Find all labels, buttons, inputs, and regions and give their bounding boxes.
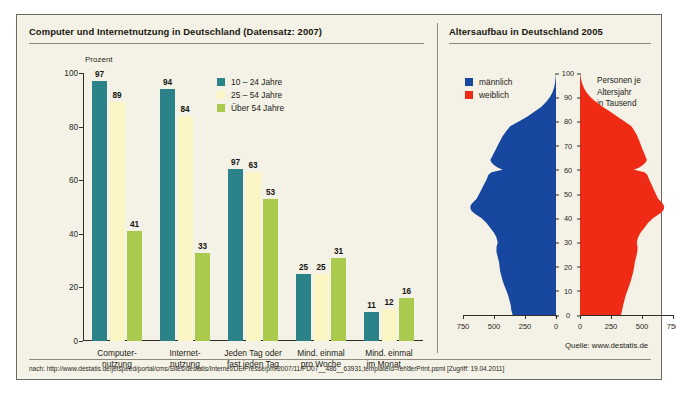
age-tick-label: 100 [562, 69, 574, 78]
bar-value-label: 53 [266, 188, 275, 197]
age-axis: 0102030405060708090100 [556, 73, 580, 315]
left-value-axis [463, 315, 556, 316]
bar[interactable]: 94 [160, 89, 175, 341]
age-tick-label: 20 [564, 262, 572, 271]
bar[interactable]: 12 [382, 309, 397, 341]
age-tick-label: 30 [564, 238, 572, 247]
age-tick-mark [555, 242, 559, 243]
bar-value-label: 63 [248, 161, 257, 170]
y-tick-label: 40 [69, 229, 78, 238]
bar-value-label: 89 [112, 91, 121, 100]
bar[interactable]: 84 [178, 116, 193, 341]
y-tick-label: 0 [73, 337, 78, 346]
bar[interactable]: 63 [246, 172, 261, 341]
value-tick-mark [611, 315, 612, 319]
value-tick-mark [580, 315, 581, 319]
age-tick: 70 [556, 141, 580, 150]
category-line: Internet- [146, 348, 224, 359]
value-tick-mark [673, 315, 674, 319]
age-tick-label: 0 [566, 311, 570, 320]
bar-value-label: 31 [334, 247, 343, 256]
age-tick-mark [577, 194, 581, 195]
age-tick: 60 [556, 165, 580, 174]
age-tick-mark [555, 121, 559, 122]
male-population-area [463, 73, 556, 315]
bar[interactable]: 11 [364, 312, 379, 341]
age-tick: 10 [556, 286, 580, 295]
bar-value-label: 25 [316, 263, 325, 272]
value-tick-label: 0 [554, 322, 558, 331]
y-tick-label: 20 [69, 283, 78, 292]
age-tick-mark [577, 97, 581, 98]
age-tick-mark [555, 97, 559, 98]
left-panel-title: Computer und Internetnutzung in Deutschl… [29, 26, 322, 37]
bar-group: 111216Mind. einmalim Monat … [355, 73, 423, 341]
bar-group: 976353Jeden Tag oderfast jeden Tag [219, 73, 287, 341]
age-tick-mark [577, 291, 581, 292]
bar-value-label: 94 [163, 78, 172, 87]
age-tick-label: 80 [564, 117, 572, 126]
age-tick: 40 [556, 214, 580, 223]
age-tick-mark [555, 194, 559, 195]
age-tick: 0 [556, 311, 580, 320]
age-tick-mark [577, 267, 581, 268]
age-tick: 20 [556, 262, 580, 271]
bar[interactable]: 33 [195, 253, 210, 341]
bar-plot-area: 020406080100 978941Computer-nutzung94843… [83, 73, 423, 341]
bar-value-label: 12 [384, 298, 393, 307]
bar[interactable]: 31 [331, 258, 346, 341]
age-tick: 50 [556, 190, 580, 199]
bar-value-label: 84 [180, 105, 189, 114]
value-tick-label: 0 [578, 322, 582, 331]
footer-source-url: nach: http://www.destatis.de/jetspeed/po… [29, 365, 504, 372]
footer-rule [29, 359, 651, 360]
bar[interactable]: 97 [228, 169, 243, 341]
age-tick-mark [555, 267, 559, 268]
age-tick-mark [577, 146, 581, 147]
age-tick: 30 [556, 238, 580, 247]
bar[interactable]: 16 [399, 298, 414, 341]
bar-value-label: 41 [130, 220, 139, 229]
age-tick-mark [555, 170, 559, 171]
age-tick-mark [555, 291, 559, 292]
age-tick-label: 90 [564, 93, 572, 102]
y-tick-mark [79, 341, 83, 342]
bar-value-label: 33 [198, 242, 207, 251]
chart-card: Computer und Internetnutzung in Deutschl… [16, 14, 662, 380]
age-tick-label: 50 [564, 190, 572, 199]
bar[interactable]: 89 [110, 102, 125, 341]
bar[interactable]: 25 [296, 274, 311, 341]
age-tick: 80 [556, 117, 580, 126]
age-tick-mark [555, 218, 559, 219]
bar-value-label: 97 [231, 158, 240, 167]
bar-group: 252531Mind. einmalpro Woche [287, 73, 355, 341]
value-tick-mark [556, 315, 557, 319]
age-tick: 90 [556, 93, 580, 102]
right-panel-title: Altersaufbau in Deutschland 2005 [449, 26, 603, 37]
infographic-page: Computer und Internetnutzung in Deutschl… [0, 0, 676, 399]
pyramid-source: Quelle: www.destatis.de [565, 341, 648, 350]
bar[interactable]: 97 [92, 81, 107, 341]
bar-value-label: 16 [402, 287, 411, 296]
value-tick-mark [494, 315, 495, 319]
left-title-rule [29, 43, 424, 44]
category-line: Jeden Tag oder [214, 348, 292, 359]
value-tick-mark [463, 315, 464, 319]
value-tick-label: 250 [605, 322, 618, 331]
age-tick-mark [555, 146, 559, 147]
age-tick-label: 70 [564, 141, 572, 150]
age-tick: 100 [556, 69, 580, 78]
bar-value-label: 11 [367, 301, 376, 310]
age-tick-label: 40 [564, 214, 572, 223]
value-tick-label: 750 [667, 322, 676, 331]
bar[interactable]: 41 [127, 231, 142, 341]
bar[interactable]: 53 [263, 199, 278, 341]
category-line: Computer- [78, 348, 156, 359]
bar[interactable]: 25 [314, 274, 329, 341]
age-tick-mark [577, 218, 581, 219]
value-tick-label: 250 [519, 322, 532, 331]
y-axis-title: Prozent [85, 55, 113, 64]
pyramid-plot-area: 0102030405060708090100 75050025000250500… [463, 73, 673, 341]
value-tick-mark [525, 315, 526, 319]
age-tick-mark [577, 170, 581, 171]
